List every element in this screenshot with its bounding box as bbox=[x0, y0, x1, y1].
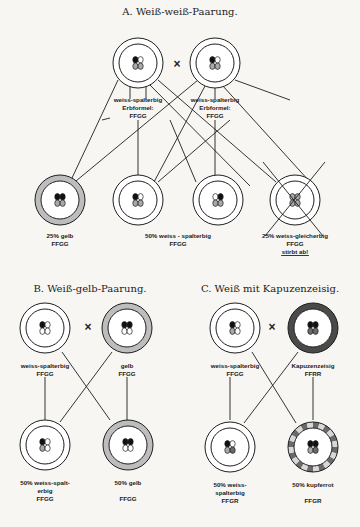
offspring-label: 50% gelb bbox=[115, 479, 142, 486]
parent-label: FFGG bbox=[226, 370, 243, 377]
offspring-label: 25% weiss-gleicherbig bbox=[262, 232, 328, 239]
section-title: C. Weiß mit Kapuzenzeisig. bbox=[201, 283, 339, 294]
offspring-circle: 50% kupferrotFFGR bbox=[288, 422, 338, 504]
offspring-label: spalterbig bbox=[215, 489, 245, 496]
offspring-label: 50% kupferrot bbox=[292, 481, 333, 488]
parent-circle: weiss-spalterbigFFGG bbox=[20, 303, 70, 377]
section-b-white-yellow-pairing: B. Weiß-gelb-Paarung.×weiss-spalterbigFF… bbox=[20, 283, 153, 502]
section-a-white-white-pairing: A. Weiß-weiß-Paarung.×weiss-spalterbigEr… bbox=[35, 6, 328, 256]
offspring-label: FFGG bbox=[36, 495, 53, 502]
parent-label: Erbformel: bbox=[122, 104, 153, 111]
offspring-label: FFGR bbox=[305, 497, 322, 504]
parent-label: weiss-spalterbig bbox=[113, 96, 163, 103]
offspring-circle: 25% weiss-gleicherbigFFGGstirbt ab! bbox=[262, 162, 328, 256]
parent-label: Erbformel: bbox=[199, 104, 230, 111]
parent-label: FFGG bbox=[129, 112, 146, 119]
offspring-label: stirbt ab! bbox=[282, 248, 308, 255]
offspring-circle bbox=[193, 175, 243, 225]
parent-label: weiss-spalterbig bbox=[20, 362, 70, 369]
parent-label: Kapuzenzeisig bbox=[292, 362, 335, 369]
offspring-label: 50% weiss- bbox=[213, 481, 246, 488]
offspring-circle: 50% gelbFFGG bbox=[103, 420, 153, 502]
section-c-white-hooded-siskin: C. Weiß mit Kapuzenzeisig.×weiss-spalter… bbox=[201, 283, 339, 504]
parent-label: FFGG bbox=[118, 370, 135, 377]
section-title: B. Weiß-gelb-Paarung. bbox=[33, 283, 146, 294]
offspring-label: 50% weiss-spalt- bbox=[20, 479, 70, 486]
parent-label: FFGG bbox=[36, 370, 53, 377]
offspring-label: FFGG bbox=[286, 240, 303, 247]
cross-symbol-icon: × bbox=[84, 320, 91, 334]
genetics-diagram: A. Weiß-weiß-Paarung.×weiss-spalterbigEr… bbox=[0, 0, 360, 527]
section-title: A. Weiß-weiß-Paarung. bbox=[121, 6, 237, 17]
parent-circle: weiss-spalterbigFFGG bbox=[210, 303, 260, 377]
parent-label: FFRR bbox=[305, 370, 322, 377]
parent-label: weiss-spalterbig bbox=[190, 96, 240, 103]
offspring-label: FFGG bbox=[51, 240, 68, 247]
parent-label: weiss-spalterbig bbox=[210, 362, 260, 369]
offspring-circle: 25% gelbFFGG bbox=[35, 175, 85, 247]
parent-label: gelb bbox=[121, 362, 134, 369]
offspring-circle bbox=[113, 175, 163, 225]
offspring-group-label: 50% weiss - spalterbig bbox=[145, 232, 211, 239]
offspring-group-label: FFGG bbox=[169, 240, 186, 247]
offspring-circle: 50% weiss-spalt-erbigFFGG bbox=[20, 420, 70, 502]
offspring-label: FFGG bbox=[119, 495, 136, 502]
offspring-label: FFGR bbox=[222, 497, 239, 504]
parent-circle: KapuzenzeisigFFRR bbox=[288, 303, 338, 377]
parent-circle: gelbFFGG bbox=[102, 303, 152, 377]
parent-circle: weiss-spalterbigErbformel:FFGG bbox=[113, 38, 163, 119]
parent-circle: weiss-spalterbigErbformel:FFGG bbox=[190, 38, 240, 119]
offspring-label: 25% gelb bbox=[47, 232, 74, 239]
cross-symbol-icon: × bbox=[173, 57, 180, 71]
offspring-label: erbig bbox=[37, 487, 52, 494]
parent-label: FFGG bbox=[206, 112, 223, 119]
cross-symbol-icon: × bbox=[268, 320, 275, 334]
offspring-circle: 50% weiss-spalterbigFFGR bbox=[205, 422, 255, 504]
